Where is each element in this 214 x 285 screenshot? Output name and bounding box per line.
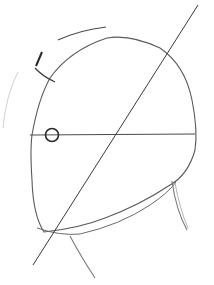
horizontal-guide-line: [30, 134, 195, 135]
upper-outer-arc: [58, 27, 106, 40]
ear-mark: [36, 52, 42, 66]
neck-line-left: [70, 236, 95, 278]
neck-line-right: [172, 181, 187, 230]
faint-left-arc: [3, 72, 18, 128]
head-construction-sketch: [0, 0, 214, 285]
